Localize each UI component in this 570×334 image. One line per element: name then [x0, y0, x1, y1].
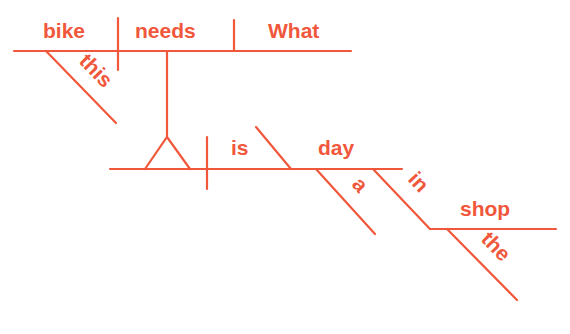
word-in: in — [404, 167, 434, 196]
word-day: day — [318, 136, 355, 159]
word-is: is — [231, 136, 249, 159]
word-this: this — [75, 49, 117, 92]
word-shop: shop — [460, 197, 510, 220]
predicate-complement-divider — [256, 127, 291, 169]
word-needs: needs — [135, 19, 196, 42]
word-bike: bike — [43, 19, 85, 42]
sentence-diagram: bike needs What this is day a in shop th… — [0, 0, 570, 334]
word-the: the — [477, 227, 515, 266]
word-a: a — [348, 172, 373, 196]
word-what: What — [268, 19, 319, 42]
pedestal-triangle — [145, 137, 190, 169]
